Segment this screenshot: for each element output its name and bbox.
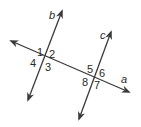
parallel-lines-diagram: b c a 1 2 3 4 5 6 7 8 [0,0,141,127]
line-a [11,41,129,92]
angle-7: 7 [94,79,100,91]
label-a: a [121,73,127,85]
angle-3: 3 [45,61,51,73]
angle-1: 1 [37,46,43,58]
label-b: b [49,9,55,21]
angle-5: 5 [87,63,93,75]
angle-8: 8 [82,76,88,88]
line-b [28,11,62,100]
angle-4: 4 [30,57,36,69]
label-c: c [100,29,106,41]
angle-6: 6 [99,67,105,79]
angle-2: 2 [49,48,55,60]
